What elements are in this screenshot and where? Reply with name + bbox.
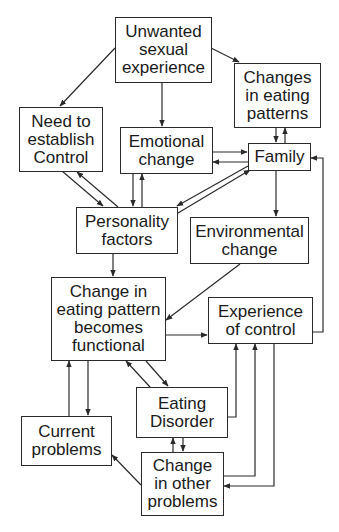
node-label: Current problems: [32, 423, 102, 459]
arrow-personality-to-family: [178, 170, 250, 213]
eating-disorder-flow-diagram: Unwanted sexual experience Changes in ea…: [0, 0, 339, 532]
arrow-unwanted-to-changes-eating: [211, 48, 239, 62]
node-label: Need to establish Control: [27, 113, 94, 167]
node-family: Family: [248, 143, 311, 171]
node-change-in-other-problems: Change in other problems: [141, 452, 224, 516]
node-changes-in-eating-patterns: Changes in eating patterns: [234, 63, 321, 128]
arrow-other-problems-to-current-problems: [112, 455, 141, 485]
node-current-problems: Current problems: [21, 416, 112, 466]
arrow-unwanted-to-need-control: [60, 48, 115, 106]
arrow-eating-disorder-to-functional: [126, 361, 150, 387]
node-need-to-establish-control: Need to establish Control: [19, 107, 103, 172]
arrow-eating-disorder-to-experience-control: [227, 344, 236, 417]
node-experience-of-control: Experience of control: [208, 297, 313, 344]
arrow-experience-control-to-other-problems: [224, 343, 274, 486]
node-label: Experience of control: [218, 303, 303, 339]
node-label: Environmental change: [195, 223, 304, 259]
node-label: Changes in eating patterns: [243, 69, 311, 123]
node-label: Family: [254, 148, 304, 166]
node-label: Change in eating pattern becomes functio…: [57, 283, 161, 355]
node-unwanted-sexual-experience: Unwanted sexual experience: [115, 17, 212, 83]
node-personality-factors: Personality factors: [76, 207, 178, 254]
node-change-in-eating-pattern-becomes-functional: Change in eating pattern becomes functio…: [51, 277, 166, 361]
node-environmental-change: Environmental change: [190, 217, 309, 264]
node-label: Emotional change: [129, 133, 205, 169]
arrow-functional-to-eating-disorder: [146, 361, 168, 386]
node-emotional-change: Emotional change: [120, 127, 213, 174]
node-label: Eating Disorder: [150, 395, 214, 431]
node-label: Personality factors: [85, 213, 169, 249]
node-label: Unwanted sexual experience: [122, 23, 205, 77]
node-label: Change in other problems: [148, 457, 218, 511]
node-eating-disorder: Eating Disorder: [136, 387, 228, 438]
